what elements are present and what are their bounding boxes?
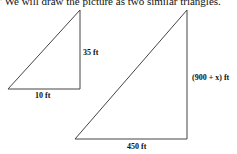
small-triangle-height-label: 35 ft (83, 48, 98, 57)
large-triangle-height-label: (900 + x) ft (192, 73, 229, 82)
small-triangle-base-label: 10 ft (35, 91, 50, 100)
small-triangle (8, 10, 80, 89)
large-triangle (75, 10, 187, 139)
large-triangle-base-label: 450 ft (127, 142, 146, 151)
